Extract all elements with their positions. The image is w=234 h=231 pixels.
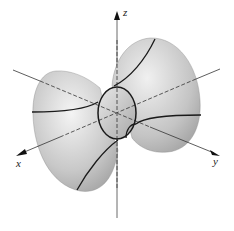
- y-axis-label: y: [213, 155, 218, 167]
- z-axis-label: z: [123, 6, 127, 18]
- x-axis-label: x: [16, 157, 21, 169]
- surface-plot: [0, 0, 234, 231]
- x-axis-arrow-icon: [16, 149, 27, 156]
- z-axis-arrow-icon: [114, 11, 120, 20]
- hyperboloid-figure: z x y: [0, 0, 234, 231]
